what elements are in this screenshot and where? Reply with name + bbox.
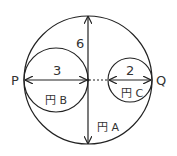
circle-b-label: 円 B [45, 94, 67, 107]
diameter-b-label: 3 [53, 63, 61, 78]
point-p-label: P [11, 73, 19, 88]
center-dot [87, 79, 90, 82]
diameter-c-label: 2 [126, 63, 134, 78]
circle-a-label: 円 A [97, 121, 119, 134]
diameter-a-label: 6 [76, 36, 84, 51]
circle-c-label: 円 C [121, 87, 143, 100]
geometry-diagram: P Q 6 3 2 円 B 円 C 円 A [0, 0, 177, 156]
point-q-label: Q [156, 73, 166, 88]
